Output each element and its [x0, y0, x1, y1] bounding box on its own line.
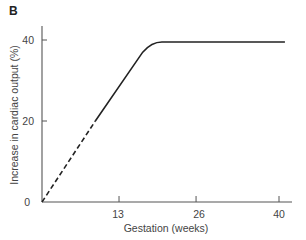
y-tick-20: 20 [22, 115, 34, 127]
cardiac-output-line [95, 42, 285, 121]
plot-area [0, 0, 306, 240]
origin-label: 0 [24, 196, 30, 208]
y-tick-40: 40 [22, 34, 34, 46]
y-axis-label: Increase in cardiac output (%) [8, 45, 20, 184]
x-axis-label: Gestation (weeks) [124, 222, 209, 234]
x-tick-40: 40 [273, 208, 285, 220]
x-tick-26: 26 [193, 208, 205, 220]
x-tick-13: 13 [112, 208, 124, 220]
data-lines [42, 42, 285, 202]
dashed-extrapolation-line [42, 121, 95, 202]
axes [42, 26, 292, 202]
